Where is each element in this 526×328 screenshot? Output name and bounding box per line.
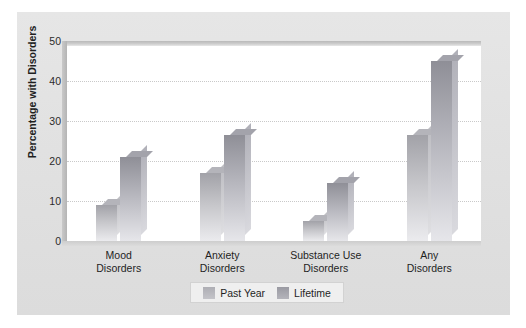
legend-swatch-icon bbox=[203, 287, 215, 299]
y-axis-ticks: 01020304050 bbox=[28, 41, 61, 241]
x-axis-category-label: MoodDisorders bbox=[69, 249, 169, 275]
gridline bbox=[67, 81, 481, 82]
y-axis-tick-label: 20 bbox=[31, 156, 61, 166]
x-axis-category-label-line: Disorders bbox=[69, 262, 169, 275]
x-axis-category-label: AnyDisorders bbox=[379, 249, 479, 275]
x-axis-category-label-line: Mood bbox=[69, 249, 169, 262]
bar bbox=[303, 221, 324, 241]
x-axis-category-label: AnxietyDisorders bbox=[172, 249, 272, 275]
legend-item[interactable]: Past Year bbox=[203, 287, 265, 299]
bar bbox=[200, 173, 221, 241]
bar-front-face bbox=[200, 173, 221, 241]
plot-left-wall bbox=[62, 41, 67, 246]
x-axis-category-label-line: Disorders bbox=[276, 262, 376, 275]
y-axis-tick-label: 10 bbox=[31, 196, 61, 206]
x-axis-category-label-line: Anxiety bbox=[172, 249, 272, 262]
bar-front-face bbox=[431, 61, 452, 241]
bar-front-face bbox=[96, 205, 117, 241]
bar bbox=[407, 135, 428, 241]
bar-side-face bbox=[141, 145, 147, 235]
plot-area bbox=[67, 41, 481, 241]
bar-side-face bbox=[245, 123, 251, 235]
bar bbox=[224, 135, 245, 241]
bar-front-face bbox=[407, 135, 428, 241]
x-axis-category-label: Substance UseDisorders bbox=[276, 249, 376, 275]
legend-label: Lifetime bbox=[294, 287, 331, 299]
plot-baseline-shelf bbox=[62, 241, 481, 246]
bar bbox=[120, 157, 141, 241]
y-axis-tick-label: 30 bbox=[31, 116, 61, 126]
bar bbox=[96, 205, 117, 241]
bar-chart-figure: Percentage with Disorders 01020304050 Mo… bbox=[0, 0, 526, 328]
legend-item[interactable]: Lifetime bbox=[277, 287, 331, 299]
x-axis-category-labels: MoodDisordersAnxietyDisordersSubstance U… bbox=[67, 249, 481, 281]
legend-swatch-icon bbox=[277, 287, 289, 299]
y-axis-tick-label: 0 bbox=[31, 236, 61, 246]
bar-front-face bbox=[120, 157, 141, 241]
chart-legend: Past YearLifetime bbox=[190, 282, 344, 303]
bar-front-face bbox=[224, 135, 245, 241]
bar-side-face bbox=[452, 49, 458, 235]
bar bbox=[431, 61, 452, 241]
bar-front-face bbox=[327, 183, 348, 241]
x-axis-category-label-line: Substance Use bbox=[276, 249, 376, 262]
x-axis-category-label-line: Disorders bbox=[379, 262, 479, 275]
plot-top-wall bbox=[67, 41, 481, 46]
y-axis-tick-label: 40 bbox=[31, 76, 61, 86]
x-axis-category-label-line: Disorders bbox=[172, 262, 272, 275]
gridline bbox=[67, 121, 481, 122]
y-axis-tick-label: 50 bbox=[31, 36, 61, 46]
bar bbox=[327, 183, 348, 241]
x-axis-category-label-line: Any bbox=[379, 249, 479, 262]
legend-label: Past Year bbox=[220, 287, 265, 299]
bar-front-face bbox=[303, 221, 324, 241]
